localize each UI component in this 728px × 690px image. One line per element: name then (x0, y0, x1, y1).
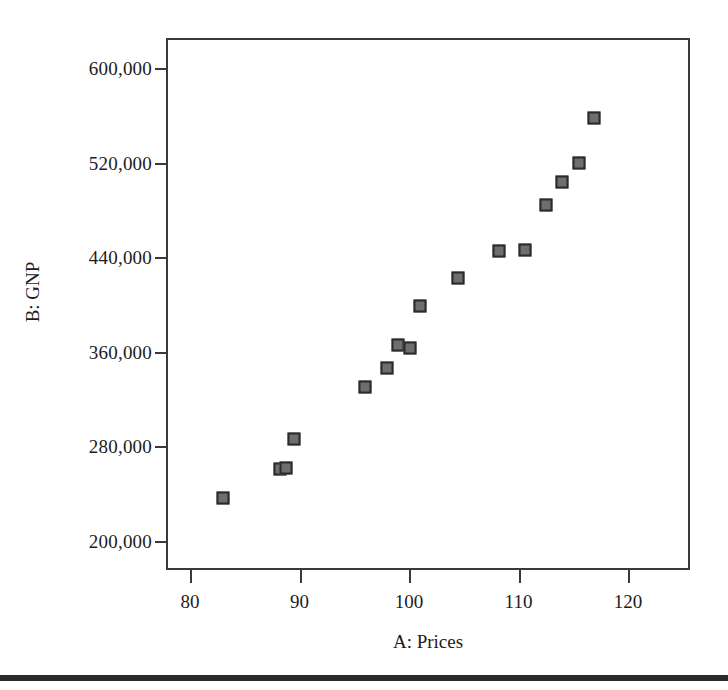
y-axis-tick-label: 200,000 (2, 532, 152, 551)
x-axis-tick-label: 120 (588, 592, 668, 612)
y-axis-tick (155, 352, 166, 354)
x-axis-tick-label: 80 (150, 592, 230, 612)
x-axis-tick (519, 570, 521, 583)
x-axis-tick (190, 570, 192, 583)
y-axis-title: B: GNP (23, 197, 43, 387)
y-axis-tick-label: 600,000 (2, 59, 152, 78)
x-axis-tick-label: 100 (369, 592, 449, 612)
x-axis-title: A: Prices (166, 632, 690, 652)
page-bottom-rule (0, 675, 728, 681)
x-axis-tick-label: 110 (479, 592, 559, 612)
y-axis-tick (155, 446, 166, 448)
x-axis-tick (300, 570, 302, 583)
plot-area-frame (166, 38, 690, 570)
y-axis-tick (155, 68, 166, 70)
y-axis-tick (155, 541, 166, 543)
x-axis-tick-label: 90 (260, 592, 340, 612)
y-axis-tick (155, 163, 166, 165)
x-axis-tick (409, 570, 411, 583)
x-axis-tick (628, 570, 630, 583)
y-axis-tick (155, 257, 166, 259)
y-axis-tick-label: 520,000 (2, 153, 152, 172)
y-axis-tick-label: 280,000 (2, 437, 152, 456)
scatter-plot-figure: 200,000280,000360,000440,000520,000600,0… (0, 0, 728, 690)
